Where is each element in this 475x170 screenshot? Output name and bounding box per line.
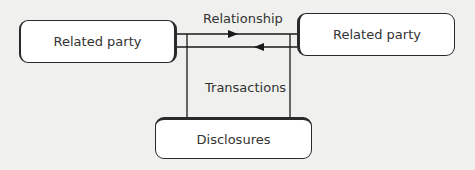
arrow-left-icon (254, 43, 264, 51)
node-label: Disclosures (197, 132, 271, 147)
node-label: Related party (333, 27, 421, 42)
arrow-right-icon (228, 30, 238, 38)
relationship-label: Relationship (203, 11, 283, 26)
transactions-label: Transactions (205, 80, 286, 95)
node-label: Related party (54, 34, 142, 49)
related-party-right-node: Related party (297, 13, 455, 56)
related-party-left-node: Related party (19, 20, 177, 63)
disclosures-node: Disclosures (155, 117, 312, 159)
